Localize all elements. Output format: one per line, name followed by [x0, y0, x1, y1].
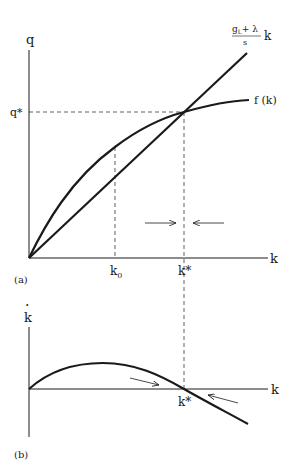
solow-growth-diagram: q k q* k0 k* gL+ λ s k f (k) (a): [0, 0, 297, 468]
arrow-down-right-icon: [130, 378, 159, 385]
line-label: gL+ λ s k: [232, 24, 272, 47]
production-function-curve: [29, 100, 249, 258]
panel-b-y-axis-label: k: [24, 310, 32, 325]
svg-text:gL+ λ: gL+ λ: [232, 24, 258, 35]
panel-a: q k q* k0 k* gL+ λ s k f (k) (a): [10, 24, 278, 389]
q-star-label: q*: [10, 106, 23, 119]
panel-b-kstar-label: k*: [178, 395, 191, 409]
investment-requirement-line: [29, 53, 247, 258]
panel-b: · k k k* (b): [14, 297, 279, 460]
k-dot-curve: [29, 363, 248, 424]
panel-a-kstar-label: k*: [178, 264, 191, 278]
svg-text:k: k: [264, 29, 272, 43]
panel-b-tag: (b): [14, 449, 28, 460]
f-k-label: f (k): [254, 94, 277, 107]
panel-b-x-axis-label: k: [271, 382, 279, 397]
k0-label: k0: [110, 264, 122, 280]
panel-a-y-axis-label: q: [26, 32, 34, 47]
arrow-up-left-icon: [208, 395, 238, 403]
panel-a-x-axis-label: k: [270, 251, 278, 266]
panel-a-tag: (a): [14, 274, 28, 285]
svg-text:s: s: [243, 38, 247, 47]
